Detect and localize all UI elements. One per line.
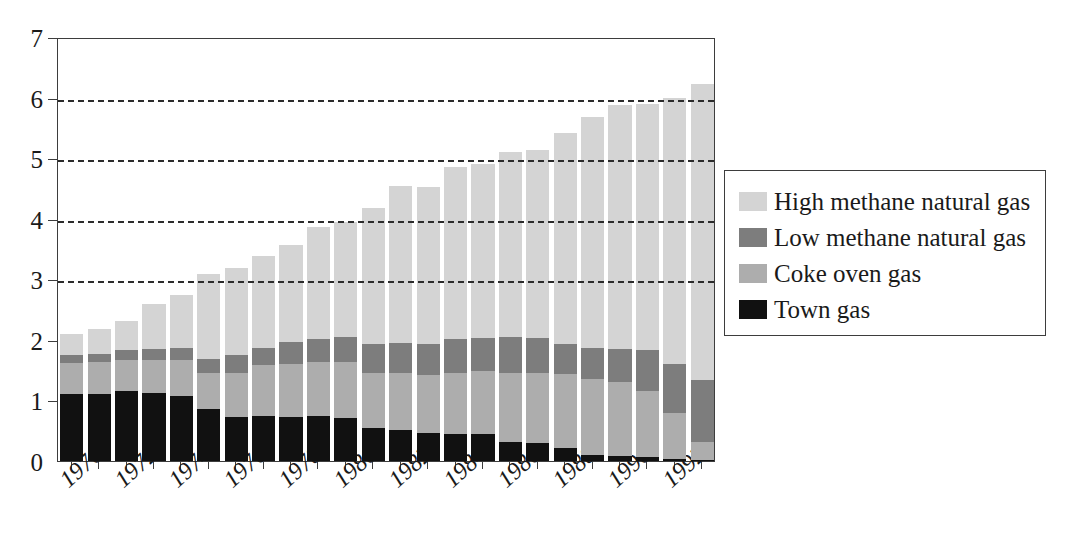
x-axis-tick-mark (427, 462, 428, 469)
bar-segment (663, 459, 686, 461)
y-axis: 01234567 (0, 38, 57, 462)
bar-segment (197, 409, 220, 461)
bar-segment (526, 373, 549, 443)
bar-segment (581, 117, 604, 348)
bar-segment (252, 365, 275, 416)
bar-segment (526, 338, 549, 373)
bar-stack (691, 84, 714, 461)
bar-segment (279, 245, 302, 342)
x-axis-tick-mark (263, 462, 264, 469)
legend-item-label: Town gas (774, 297, 870, 322)
bar-stack (170, 295, 193, 461)
bar-segment (142, 304, 165, 349)
bar-segment (252, 256, 275, 348)
bar-segment (581, 379, 604, 455)
legend-item-label: High methane natural gas (774, 189, 1030, 214)
bar-stack (115, 321, 138, 462)
bar-segment (170, 348, 193, 360)
y-axis-tick-mark (48, 341, 57, 342)
bar-stack (663, 98, 686, 461)
legend-item: Town gas (739, 291, 1045, 327)
bar-segment (334, 362, 357, 418)
bar-segment (636, 350, 659, 391)
y-axis-tick-label: 1 (31, 389, 44, 414)
bar-segment (197, 274, 220, 359)
stacked-bar-chart-figure: 01234567 1970197219741976197819801982198… (0, 0, 1067, 558)
bar-segment (307, 362, 330, 417)
bar-segment (60, 394, 83, 461)
bar-segment (115, 321, 138, 351)
bar-segment (279, 364, 302, 417)
bar-stack (636, 104, 659, 461)
y-axis-tick-mark (48, 159, 57, 160)
bar-segment (444, 373, 467, 434)
y-axis-tick-mark (48, 280, 57, 281)
x-axis-tick-mark (646, 462, 647, 469)
bar-stack (307, 227, 330, 461)
bar-segment (608, 105, 631, 348)
chart-legend: High methane natural gasLow methane natu… (724, 170, 1046, 336)
x-axis-tick-mark (701, 462, 702, 469)
bar-segment (279, 342, 302, 364)
legend-item: Coke oven gas (739, 255, 1045, 291)
bar-segment (554, 133, 577, 344)
bar-segment (170, 360, 193, 395)
y-axis-tick-label: 4 (31, 207, 44, 232)
bar-stack (60, 334, 83, 461)
bar-segment (115, 360, 138, 391)
bar-segment (444, 434, 467, 461)
bar-segment (334, 337, 357, 362)
y-axis-tick-label: 6 (31, 86, 44, 111)
bar-segment (142, 360, 165, 393)
y-axis-tick-label: 5 (31, 147, 44, 172)
bar-segment (60, 363, 83, 394)
legend-swatch-icon (739, 264, 767, 283)
bar-segment (362, 373, 385, 428)
bar-segment (279, 417, 302, 461)
bar-segment (389, 373, 412, 430)
bar-segment (608, 456, 631, 461)
bar-segment (471, 434, 494, 461)
x-axis-tick-mark (208, 462, 209, 469)
legend-item: High methane natural gas (739, 183, 1045, 219)
bar-segment (499, 442, 522, 461)
bar-segment (691, 84, 714, 381)
bar-segment (88, 362, 111, 394)
bar-segment (663, 98, 686, 364)
x-axis-tick-mark (482, 462, 483, 469)
x-axis-tick-mark (98, 462, 99, 469)
bar-segment (88, 394, 111, 461)
bar-segment (225, 373, 248, 418)
bar-stack (225, 268, 248, 461)
bar-segment (252, 348, 275, 365)
bar-segment (142, 349, 165, 360)
bar-segment (334, 418, 357, 461)
bar-segment (389, 186, 412, 343)
bar-stack (526, 150, 549, 461)
bar-segment (499, 337, 522, 373)
plot-area (57, 38, 715, 462)
x-axis-tick-mark (372, 462, 373, 469)
bar-stack (252, 256, 275, 461)
bar-segment (608, 382, 631, 456)
bar-segment (60, 334, 83, 355)
y-axis-tick-mark (48, 99, 57, 100)
bar-stack (499, 152, 522, 462)
bars-container (58, 39, 714, 461)
bar-segment (499, 152, 522, 338)
bar-segment (581, 348, 604, 379)
bar-segment (444, 339, 467, 374)
bar-segment (197, 359, 220, 372)
y-axis-tick-label: 7 (31, 26, 44, 51)
bar-stack (197, 274, 220, 461)
bar-segment (636, 391, 659, 457)
bar-segment (197, 373, 220, 409)
bar-segment (581, 455, 604, 461)
y-axis-tick-mark (48, 38, 57, 39)
x-axis-tick-mark (317, 462, 318, 469)
bar-stack (554, 133, 577, 461)
bar-segment (636, 457, 659, 461)
bar-stack (608, 105, 631, 461)
bar-segment (362, 428, 385, 461)
bar-segment (142, 393, 165, 461)
